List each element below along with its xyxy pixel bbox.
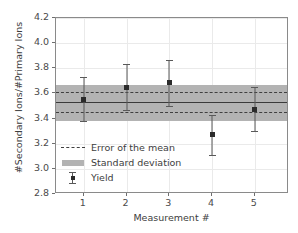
- gridline: [56, 43, 287, 44]
- standard-deviation-band: [56, 85, 287, 121]
- error-of-mean-upper-line: [56, 92, 287, 93]
- x-tick-mark: [211, 193, 212, 196]
- error-bar-cap-bottom: [251, 131, 258, 132]
- data-marker: [167, 80, 172, 85]
- legend-label: Error of the mean: [91, 142, 175, 153]
- error-bar-cap-bottom: [80, 121, 87, 122]
- y-tick-label: 2.8: [34, 188, 49, 198]
- chart-legend: Error of the mean Standard deviation Yie…: [57, 138, 177, 187]
- legend-item-error-of-the-mean: Error of the mean: [60, 140, 174, 155]
- x-tick-mark: [83, 193, 84, 196]
- chart-figure: #Secondary Ions/#Primary Ions 2.83.03.23…: [0, 0, 298, 233]
- y-tick-mark: [52, 193, 55, 194]
- mean-line: [56, 102, 287, 103]
- gridline: [56, 68, 287, 69]
- error-bar-cap-bottom: [209, 155, 216, 156]
- y-axis-label: #Secondary Ions/#Primary Ions: [13, 10, 24, 186]
- error-bar-cap-top: [80, 77, 87, 78]
- x-tick-mark: [168, 193, 169, 196]
- error-bar-cap-bottom: [166, 106, 173, 107]
- legend-label: Yield: [91, 172, 114, 183]
- dashed-line-key-icon: [60, 141, 86, 154]
- x-tick-label: 2: [116, 197, 136, 208]
- legend-item-standard-deviation: Standard deviation: [60, 155, 174, 170]
- x-tick-label: 3: [158, 197, 178, 208]
- x-tick-mark: [254, 193, 255, 196]
- legend-item-yield: Yield: [60, 170, 174, 185]
- data-marker: [81, 97, 86, 102]
- error-bar-cap-top: [166, 60, 173, 61]
- y-tick-label: 3.0: [34, 163, 49, 173]
- legend-label: Standard deviation: [91, 157, 181, 168]
- x-tick-mark: [126, 193, 127, 196]
- x-tick-label: 5: [244, 197, 264, 208]
- y-tick-label: 4.2: [34, 12, 49, 22]
- x-tick-label: 1: [73, 197, 93, 208]
- y-tick-label: 3.8: [34, 62, 49, 72]
- x-tick-label: 4: [201, 197, 221, 208]
- errorbar-marker-key-icon: [60, 171, 86, 184]
- y-tick-label: 3.6: [34, 87, 49, 97]
- error-bar-cap-top: [123, 64, 130, 65]
- band-key-icon: [60, 156, 86, 169]
- y-tick-label: 3.4: [34, 113, 49, 123]
- error-bar-cap-top: [251, 87, 258, 88]
- data-marker: [252, 107, 257, 112]
- gridline: [56, 18, 287, 19]
- data-marker: [124, 85, 129, 90]
- x-axis-label: Measurement #: [55, 212, 288, 223]
- error-of-mean-lower-line: [56, 112, 287, 113]
- y-tick-label: 4.0: [34, 37, 49, 47]
- error-bar-cap-bottom: [123, 110, 130, 111]
- y-tick-label: 3.2: [34, 138, 49, 148]
- data-marker: [210, 132, 215, 137]
- error-bar-cap-top: [209, 115, 216, 116]
